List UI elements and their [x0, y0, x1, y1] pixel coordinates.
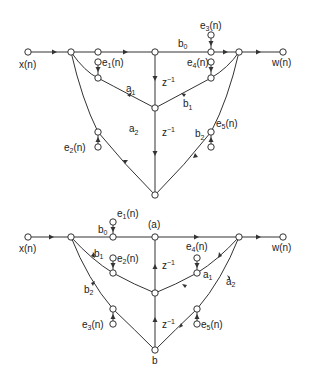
arrow-icon	[256, 235, 261, 240]
arrow-icon	[181, 93, 186, 97]
noise-e5-label: e5(n)	[201, 319, 223, 331]
caption-b: b	[152, 355, 158, 366]
node-e1	[110, 219, 116, 225]
node-center-mid	[152, 290, 158, 296]
node-branch-left	[68, 49, 74, 55]
arrow-icon	[111, 227, 116, 232]
node-a2-sum	[95, 129, 101, 135]
node-e4	[194, 255, 200, 261]
arrow-icon	[153, 151, 158, 156]
node-a1-sum	[95, 75, 101, 81]
arrow-icon	[123, 50, 128, 55]
arrow-icon	[194, 235, 199, 240]
node-branch-right	[236, 49, 242, 55]
arrow-icon	[195, 263, 200, 268]
node-output	[280, 49, 286, 55]
node-top-center	[152, 234, 158, 240]
arrow-icon	[223, 50, 228, 55]
output-label: w(n)	[271, 57, 291, 68]
node-output	[280, 234, 286, 240]
arrow-icon	[153, 317, 158, 322]
node-bottom	[152, 347, 158, 353]
diagram-a: x(n) w(n) b0 a1 a2 b1 b2 z−1 z−1 e1(n) e…	[19, 20, 291, 230]
node-e2	[110, 255, 116, 261]
coef-b1-label: b1	[94, 248, 104, 260]
coef-a2-label: a2	[226, 276, 236, 288]
node-a1-sum	[194, 270, 200, 276]
node-branch-left	[68, 234, 74, 240]
noise-e1-label: e1(n)	[117, 208, 139, 220]
arrow-icon	[195, 314, 200, 319]
arrow-icon	[209, 41, 214, 46]
coef-a1-label: a1	[203, 269, 213, 281]
arrow-icon	[209, 137, 214, 142]
node-center-mid	[152, 105, 158, 111]
node-e3	[208, 32, 214, 38]
arrow-icon	[153, 264, 158, 269]
signal-flow-figure: x(n) w(n) b0 a1 a2 b1 b2 z−1 z−1 e1(n) e…	[0, 0, 315, 371]
node-e5	[208, 144, 214, 150]
node-branch-right	[236, 234, 242, 240]
input-label: x(n)	[19, 59, 36, 70]
node-a2-sum	[194, 306, 200, 312]
edge-a2	[155, 237, 239, 350]
coef-b0-label: b0	[98, 224, 108, 236]
arrow-icon	[96, 137, 101, 142]
node-b1-sum	[208, 75, 214, 81]
noise-e4-label: e4(n)	[187, 57, 209, 69]
coef-b2-label: b2	[84, 284, 94, 296]
delay-2-label: z−1	[162, 318, 175, 330]
noise-e5-label: e5(n)	[216, 118, 238, 130]
node-e1	[95, 59, 101, 65]
node-bottom	[152, 192, 158, 198]
node-top-center	[152, 49, 158, 55]
noise-e2-label: e2(n)	[64, 142, 86, 154]
node-e3	[110, 321, 116, 327]
node-e2	[95, 144, 101, 150]
noise-e3-label: e3(n)	[82, 319, 104, 331]
node-b2-sum	[208, 129, 214, 135]
delay-2-label: z−1	[162, 126, 175, 138]
arrow-icon	[209, 67, 214, 72]
coef-b1-label: b1	[183, 98, 193, 111]
arrow-icon	[182, 284, 187, 288]
edge-a2	[71, 52, 155, 195]
noise-e3-label: e3(n)	[200, 20, 222, 32]
arrow-icon	[111, 314, 116, 319]
noise-e2-label: e2(n)	[117, 253, 139, 265]
node-e3-sum	[208, 49, 214, 55]
diagram-b: x(n) w(n) b0 b1 b2 a1 a2 z−1 z−1 e1(n) e…	[19, 208, 291, 366]
node-b2-sum	[110, 306, 116, 312]
coef-b0-label: b0	[178, 38, 188, 50]
noise-e4-label: e4(n)	[186, 241, 208, 253]
node-top-mid	[95, 49, 101, 55]
arrow-icon	[153, 76, 158, 81]
arrow-icon	[49, 235, 54, 240]
node-input	[25, 234, 31, 240]
arrow-icon	[52, 50, 57, 55]
coef-b2-label: b2	[195, 128, 205, 141]
coef-a2-label: a2	[129, 123, 139, 136]
node-e5	[194, 321, 200, 327]
arrow-icon	[111, 263, 116, 268]
arrow-icon	[256, 50, 261, 55]
input-label: x(n)	[19, 243, 36, 254]
node-b1-sum	[110, 270, 116, 276]
node-b0-sum	[110, 234, 116, 240]
output-label: w(n)	[271, 242, 291, 253]
caption-a: (a)	[148, 219, 160, 230]
arrow-icon	[96, 67, 101, 72]
node-input	[25, 49, 31, 55]
noise-e1-label: e1(n)	[102, 57, 124, 69]
delay-1-label: z−1	[162, 259, 175, 271]
delay-1-label: z−1	[162, 76, 175, 88]
node-e4	[208, 59, 214, 65]
